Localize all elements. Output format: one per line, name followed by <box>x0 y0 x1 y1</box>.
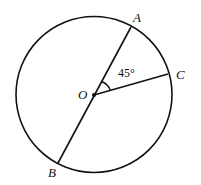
angle-arc <box>102 82 111 91</box>
label-o: O <box>78 87 88 102</box>
center-dot <box>92 93 96 97</box>
circle-diagram: O A B C 45° <box>0 0 201 185</box>
angle-label: 45° <box>118 66 135 80</box>
label-a: A <box>132 10 141 25</box>
label-c: C <box>176 67 185 82</box>
label-b: B <box>48 165 56 180</box>
